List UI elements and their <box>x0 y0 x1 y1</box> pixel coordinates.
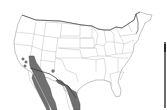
record-dot-3 <box>24 65 27 68</box>
record-dot-2 <box>25 61 28 64</box>
record-dot-4 <box>52 70 55 73</box>
record-dot-1 <box>22 58 25 61</box>
us-map-svg <box>0 0 167 110</box>
range-map <box>0 0 167 110</box>
right-edge-bar-dark <box>164 44 166 52</box>
